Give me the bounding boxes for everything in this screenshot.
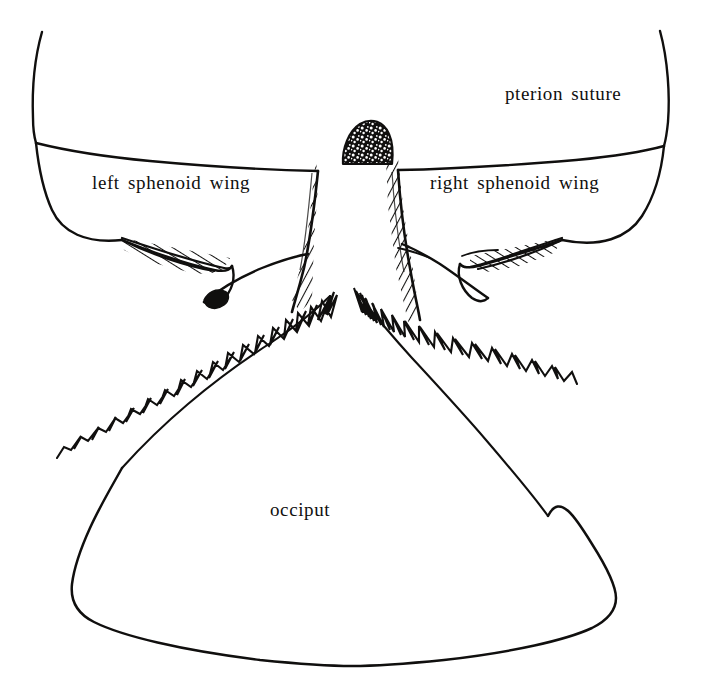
label-right-sphenoid-wing: right sphenoid wing [430, 173, 599, 192]
label-left-sphenoid-wing: left sphenoid wing [92, 173, 250, 192]
label-occiput: occiput [270, 500, 330, 519]
figure-canvas: pterion suture left sphenoid wing right … [0, 0, 702, 682]
label-pterion-suture: pterion suture [505, 84, 621, 103]
